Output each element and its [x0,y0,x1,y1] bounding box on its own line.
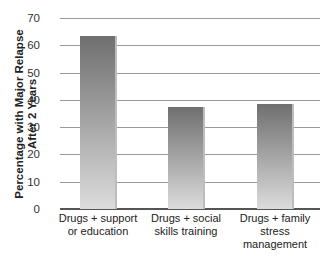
plot-area: 70 60 50 40 30 20 10 0 [60,18,320,209]
y-tick-30: 30 [20,121,40,133]
y-tick-10: 10 [20,176,40,188]
y-tick-20: 20 [20,148,40,160]
y-tick-0: 0 [20,203,40,215]
x-category-2: Drugs + social skills training [136,212,236,238]
gridline-70 [60,18,320,19]
y-axis-label-line-2: After 2 Years [26,29,39,198]
y-tick-40: 40 [20,94,40,106]
bar-family-stress [257,104,292,209]
y-tick-70: 70 [20,12,40,24]
bar-support-education [80,36,115,209]
x-category-1: Drugs + support or education [48,212,148,238]
y-tick-60: 60 [20,39,40,51]
bar-social-skills [168,107,203,209]
y-axis-label-line-1: Percentage with Major Relapse [13,29,26,198]
x-category-3: Drugs + family stress management [225,212,325,251]
y-tick-50: 50 [20,67,40,79]
